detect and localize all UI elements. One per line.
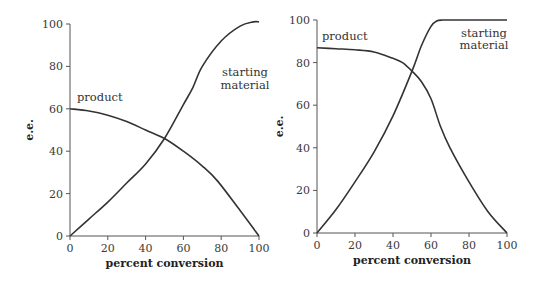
product-curve <box>317 48 507 233</box>
y-tick-label: 40 <box>296 142 310 155</box>
product-curve <box>70 109 259 236</box>
starting-material-label-line2: material <box>221 78 270 92</box>
y-tick-label: 20 <box>296 184 310 197</box>
y-tick-label: 80 <box>296 57 310 70</box>
x-tick-label: 80 <box>462 239 476 252</box>
starting-material-label-line2: material <box>460 38 509 52</box>
x-tick-label: 60 <box>176 242 190 255</box>
x-tick-label: 20 <box>101 242 115 255</box>
product-label: product <box>77 90 123 104</box>
starting-material-label: starting <box>222 65 269 79</box>
y-tick-label: 60 <box>49 103 63 116</box>
chart-right: 020406080100020406080100percent conversi… <box>273 14 518 267</box>
y-tick-label: 20 <box>49 188 63 201</box>
y-axis-title: e.e. <box>23 119 36 141</box>
x-tick-label: 100 <box>497 239 518 252</box>
y-tick-label: 40 <box>49 145 63 158</box>
x-tick-label: 80 <box>214 242 228 255</box>
x-axis-title: percent conversion <box>105 257 223 270</box>
y-tick-label: 100 <box>42 18 63 31</box>
y-tick-label: 0 <box>303 227 310 240</box>
y-tick-label: 80 <box>49 60 63 73</box>
y-tick-label: 60 <box>296 99 310 112</box>
product-label: product <box>322 29 368 43</box>
x-tick-label: 60 <box>424 239 438 252</box>
x-tick-label: 100 <box>249 242 270 255</box>
starting-material-curve <box>70 22 259 236</box>
y-axis-title: e.e. <box>273 116 286 138</box>
x-axis-title: percent conversion <box>353 254 471 267</box>
x-tick-label: 40 <box>139 242 153 255</box>
chart-left: 020406080100020406080100percent conversi… <box>23 18 270 270</box>
x-tick-label: 20 <box>348 239 362 252</box>
y-tick-label: 0 <box>56 230 63 243</box>
y-tick-label: 100 <box>289 14 310 27</box>
x-tick-label: 0 <box>67 242 74 255</box>
figure: 020406080100020406080100percent conversi… <box>0 0 536 283</box>
x-tick-label: 0 <box>314 239 321 252</box>
x-tick-label: 40 <box>386 239 400 252</box>
